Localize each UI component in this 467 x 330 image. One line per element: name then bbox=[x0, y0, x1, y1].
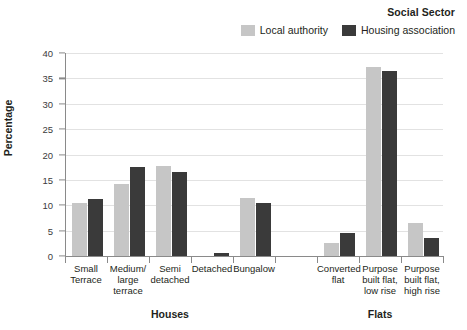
y-tick-label: 15 bbox=[6, 174, 53, 185]
plot-area bbox=[65, 53, 443, 256]
bar bbox=[424, 238, 439, 256]
bar bbox=[240, 198, 255, 256]
group-label: Houses bbox=[65, 308, 275, 320]
bar bbox=[324, 243, 339, 256]
y-tick-label: 25 bbox=[6, 124, 53, 135]
bar bbox=[382, 71, 397, 256]
group-label: Flats bbox=[317, 308, 443, 320]
bar-group bbox=[108, 53, 150, 256]
legend-entry-local-authority: Local authority bbox=[241, 24, 328, 36]
bar-chart: Social Sector Local authority Housing as… bbox=[0, 0, 467, 330]
bar bbox=[408, 223, 423, 256]
legend-swatch-icon bbox=[342, 25, 356, 36]
bar-group bbox=[318, 53, 360, 256]
bar bbox=[366, 67, 381, 256]
chart-title: Social Sector bbox=[387, 6, 455, 18]
category-label: Converted flat bbox=[317, 263, 359, 285]
bar bbox=[72, 203, 87, 256]
category-tick bbox=[275, 256, 276, 263]
x-axis-line bbox=[65, 256, 443, 257]
legend-label: Local authority bbox=[260, 24, 328, 36]
category-label: Bungalow bbox=[233, 263, 275, 274]
category-label: Purpose built flat, high rise bbox=[401, 263, 443, 296]
category-tick bbox=[233, 256, 234, 263]
bar bbox=[156, 166, 171, 256]
category-tick bbox=[65, 256, 66, 263]
y-tick-label: 40 bbox=[6, 48, 53, 59]
category-tick bbox=[359, 256, 360, 263]
bar-group bbox=[402, 53, 444, 256]
bar bbox=[256, 203, 271, 256]
legend-entry-housing-association: Housing association bbox=[342, 24, 455, 36]
y-tick-label: 10 bbox=[6, 200, 53, 211]
bar bbox=[172, 172, 187, 256]
category-label: Small Terrace bbox=[65, 263, 107, 285]
category-tick bbox=[317, 256, 318, 263]
category-label: Semi detached bbox=[149, 263, 191, 285]
bar-group bbox=[360, 53, 402, 256]
bar bbox=[88, 199, 103, 256]
bar bbox=[114, 184, 129, 256]
category-tick bbox=[191, 256, 192, 263]
bar-group bbox=[150, 53, 192, 256]
y-tick-label: 5 bbox=[6, 225, 53, 236]
y-tick-label: 20 bbox=[6, 149, 53, 160]
bar bbox=[340, 233, 355, 256]
category-tick bbox=[401, 256, 402, 263]
category-tick bbox=[107, 256, 108, 263]
category-label: Detached bbox=[191, 263, 233, 274]
legend-swatch-icon bbox=[241, 25, 255, 36]
y-tick-label: 0 bbox=[6, 251, 53, 262]
bar-group bbox=[234, 53, 276, 256]
y-tick-label: 35 bbox=[6, 73, 53, 84]
bar-group bbox=[66, 53, 108, 256]
legend-label: Housing association bbox=[361, 24, 455, 36]
category-tick bbox=[149, 256, 150, 263]
category-label: Medium/ large terrace bbox=[107, 263, 149, 296]
bar-group bbox=[192, 53, 234, 256]
category-label: Purpose built flat, low rise bbox=[359, 263, 401, 296]
y-tick-label: 30 bbox=[6, 98, 53, 109]
category-tick bbox=[443, 256, 444, 263]
chart-legend: Local authority Housing association bbox=[241, 24, 455, 36]
bar bbox=[130, 167, 145, 256]
